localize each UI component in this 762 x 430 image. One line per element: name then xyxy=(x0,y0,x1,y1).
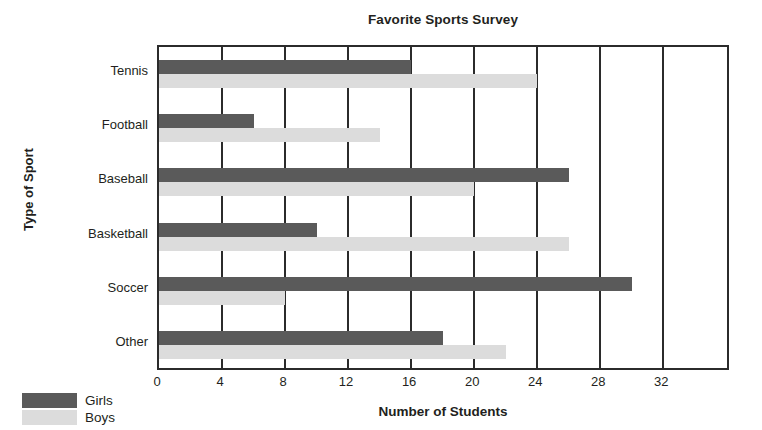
y-axis-label-other: Other xyxy=(8,334,148,349)
y-axis-category-labels: TennisFootballBaseballBasketballSoccerOt… xyxy=(0,45,148,370)
y-axis-label-basketball: Basketball xyxy=(8,226,148,241)
bar-soccer-girls xyxy=(159,277,632,291)
bar-group xyxy=(159,223,727,251)
x-axis-tick-labels: 048121620242832 xyxy=(157,374,757,396)
x-axis-tick-8: 8 xyxy=(279,374,286,389)
bar-group xyxy=(159,331,727,359)
y-axis-label-football: Football xyxy=(8,117,148,132)
x-axis-tick-24: 24 xyxy=(528,374,542,389)
bar-group xyxy=(159,60,727,88)
bar-soccer-boys xyxy=(159,291,285,305)
chart-legend: GirlsBoys xyxy=(22,392,172,426)
legend-item-boys: Boys xyxy=(22,409,172,426)
y-axis-label-soccer: Soccer xyxy=(8,280,148,295)
x-axis-tick-16: 16 xyxy=(402,374,416,389)
bar-baseball-boys xyxy=(159,182,474,196)
legend-item-girls: Girls xyxy=(22,392,172,409)
x-axis-tick-12: 12 xyxy=(339,374,353,389)
x-axis-tick-32: 32 xyxy=(654,374,668,389)
bars-layer xyxy=(159,47,727,368)
x-axis-tick-28: 28 xyxy=(591,374,605,389)
bar-group xyxy=(159,168,727,196)
legend-swatch-boys xyxy=(22,410,77,425)
chart-title: Favorite Sports Survey xyxy=(157,12,729,27)
bar-group xyxy=(159,277,727,305)
bar-basketball-girls xyxy=(159,223,317,237)
x-axis-tick-4: 4 xyxy=(216,374,223,389)
y-axis-label-tennis: Tennis xyxy=(8,63,148,78)
bar-group xyxy=(159,114,727,142)
x-axis-title: Number of Students xyxy=(157,404,729,419)
bar-football-girls xyxy=(159,114,254,128)
bar-tennis-boys xyxy=(159,74,537,88)
bar-basketball-boys xyxy=(159,237,569,251)
bar-other-girls xyxy=(159,331,443,345)
bar-tennis-girls xyxy=(159,60,411,74)
plot-area xyxy=(157,45,729,370)
legend-swatch-girls xyxy=(22,393,77,408)
y-axis-label-baseball: Baseball xyxy=(8,171,148,186)
legend-label-boys: Boys xyxy=(85,409,115,426)
legend-label-girls: Girls xyxy=(85,392,113,409)
bar-football-boys xyxy=(159,128,380,142)
bar-other-boys xyxy=(159,345,506,359)
x-axis-tick-0: 0 xyxy=(153,374,160,389)
bar-baseball-girls xyxy=(159,168,569,182)
x-axis-tick-20: 20 xyxy=(465,374,479,389)
